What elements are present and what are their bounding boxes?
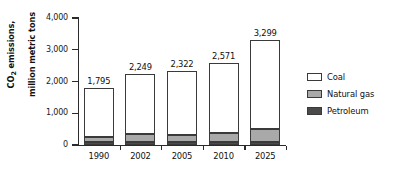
bar-total-label: 1,795 xyxy=(76,76,122,86)
y-axis-tick xyxy=(72,113,78,114)
bar-segment-natural-gas xyxy=(84,137,114,141)
bar-segment-natural-gas xyxy=(125,134,155,143)
bar-2002 xyxy=(125,18,155,145)
y-axis-tick-label: 1,000 xyxy=(34,108,68,117)
bar-segment-coal xyxy=(84,88,114,137)
x-axis-label-2025: 2025 xyxy=(239,151,291,161)
y-axis-tick xyxy=(72,144,78,145)
x-axis-tick xyxy=(120,146,121,150)
chart-legend: CoalNatural gasPetroleum xyxy=(307,70,374,121)
bar-segment-petroleum xyxy=(250,142,280,145)
y-axis-tick-label: 2,000 xyxy=(34,77,68,86)
bar-segment-coal xyxy=(167,71,197,134)
petroleum-swatch xyxy=(307,107,322,116)
x-axis-tick xyxy=(286,146,287,150)
bar-2010 xyxy=(209,18,239,145)
bar-segment-coal xyxy=(250,40,280,129)
x-axis-tick xyxy=(244,146,245,150)
legend-item-coal[interactable]: Coal xyxy=(307,70,374,84)
legend-label: Natural gas xyxy=(327,89,374,99)
bar-total-label: 2,571 xyxy=(201,51,247,61)
bar-segment-petroleum xyxy=(125,142,155,145)
bar-segment-natural-gas xyxy=(209,133,239,142)
bar-segment-natural-gas xyxy=(167,135,197,143)
coal-swatch xyxy=(307,73,322,82)
legend-label: Petroleum xyxy=(327,106,369,116)
legend-item-petroleum[interactable]: Petroleum xyxy=(307,104,374,118)
bar-segment-coal xyxy=(209,63,239,133)
y-axis-tick xyxy=(72,17,78,18)
bar-segment-petroleum xyxy=(209,142,239,145)
x-axis-tick xyxy=(203,146,204,150)
legend-label: Coal xyxy=(327,72,345,82)
bar-total-label: 2,249 xyxy=(117,62,163,72)
bar-segment-petroleum xyxy=(167,142,197,145)
bar-total-label: 3,299 xyxy=(242,28,288,38)
bar-2005 xyxy=(167,18,197,145)
bar-segment-petroleum xyxy=(84,142,114,145)
bar-segment-natural-gas xyxy=(250,129,280,142)
legend-item-natural-gas[interactable]: Natural gas xyxy=(307,87,374,101)
y-axis-title-line1: CO2 emissions, xyxy=(6,21,16,89)
stacked-bar-chart: CO2 emissions, million metric tons 01,00… xyxy=(0,0,393,171)
y-axis-tick-label: 4,000 xyxy=(34,13,68,22)
y-axis-tick xyxy=(72,49,78,50)
bar-total-label: 2,322 xyxy=(159,59,205,69)
x-axis-line xyxy=(78,145,286,146)
y-axis-title: CO2 emissions, million metric tons xyxy=(0,0,37,115)
y-axis-tick-label: 3,000 xyxy=(34,45,68,54)
y-axis-tick-label: 0 xyxy=(34,140,68,149)
natural-gas-swatch xyxy=(307,90,322,99)
bar-segment-coal xyxy=(125,74,155,134)
x-axis-tick xyxy=(161,146,162,150)
